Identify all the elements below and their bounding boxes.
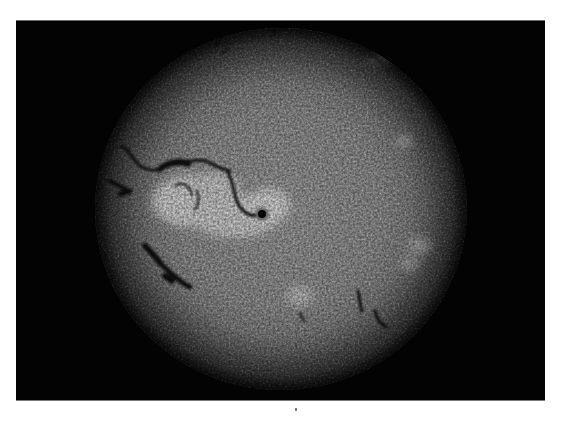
photo-canvas bbox=[0, 0, 563, 421]
black-frame bbox=[16, 20, 545, 401]
solar-disk-image bbox=[16, 21, 545, 400]
dust-speck bbox=[295, 408, 297, 411]
limb-darkening bbox=[95, 28, 467, 390]
